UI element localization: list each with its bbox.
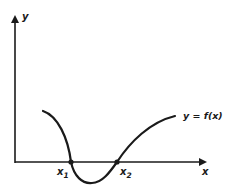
root-label-x1: x1 <box>56 166 69 180</box>
curve-label: y = f(x) <box>183 110 223 121</box>
root-label-x1-sub: 1 <box>63 171 68 180</box>
y-axis-label: y <box>22 11 29 22</box>
function-roots-diagram: y x y = f(x) x1 x2 <box>0 0 227 191</box>
root-point-x1 <box>68 159 73 164</box>
x-axis-label: x <box>201 166 209 177</box>
root-label-x2-sub: 2 <box>126 171 131 180</box>
root-label-x2: x2 <box>119 166 132 180</box>
root-point-x2 <box>114 159 119 164</box>
